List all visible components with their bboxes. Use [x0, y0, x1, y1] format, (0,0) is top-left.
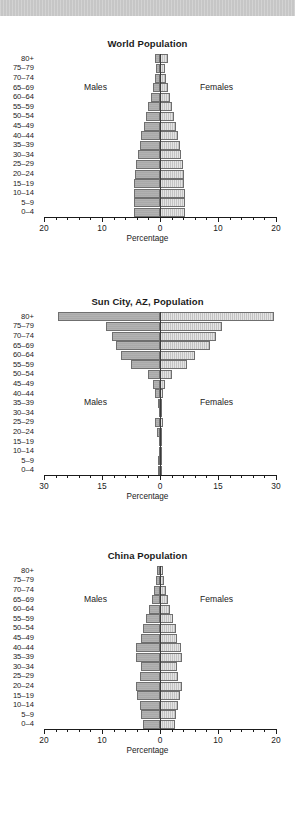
bar-male [116, 341, 160, 350]
y-axis-tick-label: 65–69 [13, 596, 34, 604]
bar-male [148, 370, 160, 379]
x-axis-tick-label: 10 [213, 735, 222, 745]
bar-male [106, 322, 160, 331]
y-axis-tick-label: 50–54 [13, 370, 34, 378]
bar-female [160, 208, 185, 217]
x-axis-minor-tick [230, 729, 231, 732]
bar-female [160, 634, 177, 643]
bar-male [149, 605, 160, 614]
x-axis-tick-label: 10 [97, 735, 106, 745]
bar-male [152, 595, 160, 604]
bar-female [160, 170, 184, 179]
legend-label-males: Males [84, 82, 107, 92]
x-axis-minor-tick [230, 475, 231, 478]
bar-male [134, 179, 160, 188]
x-axis-tick-label: 10 [213, 223, 222, 233]
bar-male [143, 720, 160, 729]
x-axis-major-tick [218, 729, 219, 734]
x-axis-tick-label: 0 [158, 481, 163, 491]
x-axis-minor-tick [264, 475, 265, 478]
plot-area [44, 566, 276, 729]
bar-male [153, 83, 160, 92]
x-axis-major-tick [160, 475, 161, 480]
bar-female [160, 312, 274, 321]
x-axis-tick-label: 0 [158, 223, 163, 233]
y-axis-tick-label: 15–19 [13, 438, 34, 446]
bar-female [160, 102, 172, 111]
bar-female [160, 643, 181, 652]
bar-female [160, 150, 181, 159]
y-axis-age-labels: 80+75–7970–7465–6960–6455–5950–5445–4940… [0, 566, 36, 729]
chart-china-population: China Population 80+75–7970–7465–6960–64… [0, 550, 295, 757]
y-axis-tick-label: 65–69 [13, 342, 34, 350]
x-axis-major-tick [102, 729, 103, 734]
x-axis-minor-tick [172, 729, 173, 732]
chart-world-population: World Population 80+75–7970–7465–6960–64… [0, 38, 295, 245]
bar-female [160, 672, 178, 681]
x-axis-minor-tick [206, 475, 207, 478]
x-axis-minor-tick [125, 729, 126, 732]
bar-male [148, 102, 160, 111]
plot-wrap: 80+75–7970–7465–6960–6455–5950–5445–4940… [0, 312, 295, 503]
x-axis-minor-tick [172, 217, 173, 220]
bar-female [160, 179, 184, 188]
x-axis-minor-tick [241, 729, 242, 732]
bar-male [146, 112, 160, 121]
y-axis-tick-label: 55–59 [13, 103, 34, 111]
y-axis-tick-label: 15–19 [13, 692, 34, 700]
x-axis-minor-tick [137, 475, 138, 478]
y-axis-tick-label: 35–39 [13, 653, 34, 661]
bar-female [160, 691, 180, 700]
bar-female [160, 189, 185, 198]
bar-female [160, 351, 195, 360]
bar-female [160, 701, 178, 710]
x-axis-minor-tick [114, 475, 115, 478]
bar-male [136, 160, 160, 169]
x-axis-minor-tick [241, 475, 242, 478]
bar-male [140, 672, 160, 681]
y-axis-tick-label: 75–79 [13, 322, 34, 330]
bar-female [160, 614, 173, 623]
population-pyramids-page: World Population 80+75–7970–7465–6960–64… [0, 0, 295, 816]
bar-female [160, 710, 176, 719]
x-axis-major-tick [102, 217, 103, 222]
x-axis-minor-tick [264, 729, 265, 732]
y-axis-tick-label: 0–4 [21, 466, 34, 474]
bar-male [136, 653, 160, 662]
bar-female [160, 360, 187, 369]
x-axis-title: Percentage [0, 492, 295, 501]
bar-female [160, 112, 174, 121]
bar-male [136, 643, 160, 652]
y-axis-tick-label: 30–34 [13, 409, 34, 417]
bar-female [160, 624, 176, 633]
x-axis-minor-tick [241, 217, 242, 220]
y-axis-tick-label: 20–24 [13, 682, 34, 690]
y-axis-tick-label: 70–74 [13, 332, 34, 340]
bar-male [135, 170, 160, 179]
y-axis-age-labels: 80+75–7970–7465–6960–6455–5950–5445–4940… [0, 312, 36, 475]
x-axis-minor-tick [56, 729, 57, 732]
y-axis-tick-label: 75–79 [13, 576, 34, 584]
x-axis-minor-tick [67, 729, 68, 732]
x-axis-minor-tick [264, 217, 265, 220]
bar-female [160, 160, 183, 169]
y-axis-tick-label: 60–64 [13, 351, 34, 359]
bar-male [121, 351, 160, 360]
bar-female [160, 332, 216, 341]
y-axis-tick-label: 45–49 [13, 380, 34, 388]
bar-female [160, 720, 175, 729]
x-axis-minor-tick [172, 475, 173, 478]
y-axis-tick-label: 25–29 [13, 672, 34, 680]
chart-title: China Population [0, 550, 295, 562]
y-axis-tick-label: 55–59 [13, 361, 34, 369]
y-axis-tick-label: 30–34 [13, 663, 34, 671]
bar-female [160, 605, 170, 614]
y-axis-tick-label: 5–9 [21, 457, 34, 465]
x-axis-minor-tick [137, 217, 138, 220]
x-axis-tick-label: 15 [213, 481, 222, 491]
bar-male [144, 122, 160, 131]
y-axis-tick-label: 80+ [21, 567, 34, 575]
chart-title: Sun City, AZ, Population [0, 296, 295, 308]
x-axis-minor-tick [253, 217, 254, 220]
bar-female [160, 682, 182, 691]
